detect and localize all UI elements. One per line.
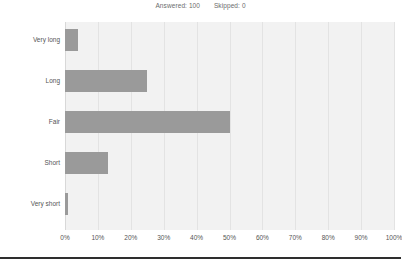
xtick-label-90pct: 90% <box>355 234 368 241</box>
category-label-very-short: Very short <box>0 200 60 207</box>
xtick-label-80pct: 80% <box>322 234 335 241</box>
gridline-100pct <box>394 22 395 230</box>
xtick-label-60pct: 60% <box>256 234 269 241</box>
bar-row <box>65 70 394 92</box>
bar-chart: Very longLongFairShortVery short 0%10%20… <box>0 20 401 252</box>
footer-divider <box>0 257 401 259</box>
category-label-very-long: Very long <box>0 36 60 43</box>
xtick-label-0pct: 0% <box>60 234 69 241</box>
xtick-label-10pct: 10% <box>91 234 104 241</box>
skipped-count: Skipped: 0 <box>214 2 246 9</box>
bar-row <box>65 111 394 133</box>
category-label-fair: Fair <box>0 118 60 125</box>
xtick-label-30pct: 30% <box>157 234 170 241</box>
value-axis-labels: 0%10%20%30%40%50%60%70%80%90%100% <box>0 234 401 248</box>
bar-row <box>65 193 394 215</box>
xtick-label-40pct: 40% <box>190 234 203 241</box>
bar-row <box>65 29 394 51</box>
xtick-label-50pct: 50% <box>223 234 236 241</box>
bar-long[interactable] <box>65 70 147 92</box>
xtick-label-70pct: 70% <box>289 234 302 241</box>
bar-very-short[interactable] <box>65 193 68 215</box>
bar-very-long[interactable] <box>65 29 78 51</box>
bar-row <box>65 152 394 174</box>
chart-summary-header: Answered: 100 Skipped: 0 <box>0 2 401 9</box>
category-label-long: Long <box>0 77 60 84</box>
category-label-short: Short <box>0 159 60 166</box>
bar-short[interactable] <box>65 152 108 174</box>
xtick-label-20pct: 20% <box>124 234 137 241</box>
answered-count: Answered: 100 <box>155 2 200 9</box>
bar-fair[interactable] <box>65 111 230 133</box>
xtick-label-100pct: 100% <box>386 234 402 241</box>
